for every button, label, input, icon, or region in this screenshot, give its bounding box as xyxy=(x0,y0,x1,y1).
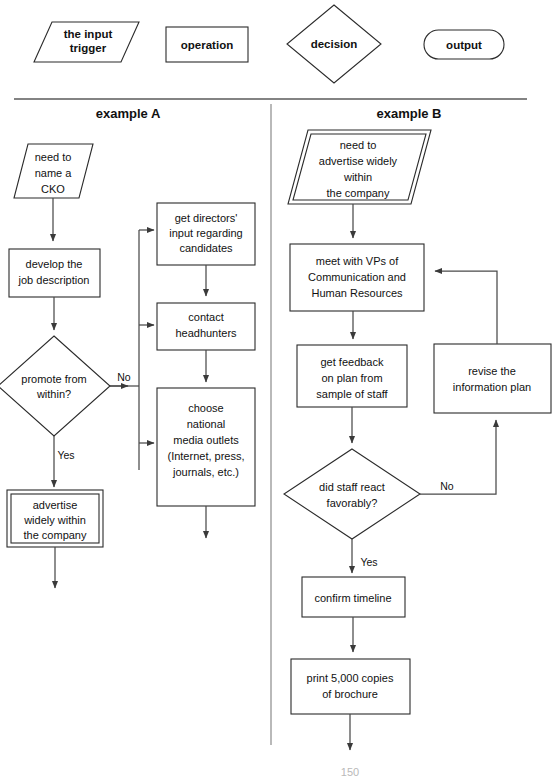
node-label-line2: job description xyxy=(18,274,90,286)
example-b-flow: need to advertise widely within the comp… xyxy=(284,130,551,750)
node-promote-from-within: promote from within? xyxy=(0,336,110,436)
node-revise-information-plan: revise the information plan xyxy=(434,344,551,413)
node-label-line2: information plan xyxy=(453,381,531,393)
legend-item-input: the input trigger xyxy=(34,22,139,62)
node-label-line3: Human Resources xyxy=(311,287,403,299)
node-contact-headhunters: contact headhunters xyxy=(157,303,255,350)
node-label-line2: within? xyxy=(36,388,71,400)
node-label-line2: favorably? xyxy=(327,497,378,509)
node-label-line2: of brochure xyxy=(322,688,378,700)
diamond-shape xyxy=(0,336,110,436)
node-label-line1: need to xyxy=(340,139,377,151)
legend-input-label-line2: trigger xyxy=(70,42,107,54)
legend: the input trigger operation decision out… xyxy=(34,5,504,83)
node-did-staff-react-favorably: did staff react favorably? xyxy=(284,449,420,539)
diamond-shape xyxy=(284,449,420,539)
node-choose-national-media-outlets: choose national media outlets (Internet,… xyxy=(157,388,255,506)
edge-b5-b4-no xyxy=(420,420,496,494)
node-label-line3: CKO xyxy=(41,183,65,195)
legend-decision-label: decision xyxy=(311,38,358,50)
node-label-line2: widely within xyxy=(23,514,86,526)
node-label-line1: need to xyxy=(35,151,72,163)
node-label-line1: get feedback xyxy=(321,356,384,368)
node-develop-job-description: develop the job description xyxy=(9,249,100,297)
legend-output-label: output xyxy=(446,39,482,51)
node-label-line1: advertise xyxy=(33,499,78,511)
node-need-to-name-cko: need to name a CKO xyxy=(14,144,93,198)
node-label-line3: within xyxy=(343,171,372,183)
node-label-line1: did staff react xyxy=(319,481,385,493)
node-label-line1: confirm timeline xyxy=(314,592,391,604)
edge-label-no-a: No xyxy=(117,371,131,383)
example-a-flow: need to name a CKO develop the job descr… xyxy=(0,144,255,588)
node-get-directors-input: get directors' input regarding candidate… xyxy=(157,203,255,265)
node-label-line1: contact xyxy=(188,311,223,323)
legend-item-output: output xyxy=(424,30,504,59)
edge-b4-b2 xyxy=(435,271,497,344)
legend-item-operation: operation xyxy=(166,27,248,62)
node-label-line2: national xyxy=(187,418,226,430)
node-label-line1: revise the xyxy=(468,365,516,377)
node-label-line1: develop the xyxy=(26,258,83,270)
edge-label-yes-a: Yes xyxy=(57,449,74,461)
node-label-line3: media outlets xyxy=(173,434,239,446)
node-label-line3: candidates xyxy=(179,242,233,254)
node-label-line5: journals, etc.) xyxy=(172,466,239,478)
page-number: 150 xyxy=(341,766,359,778)
edge-label-yes-b: Yes xyxy=(360,556,377,568)
header-example-b: example B xyxy=(376,106,441,121)
node-label-line4: the company xyxy=(327,187,390,199)
node-label-line1: meet with VPs of xyxy=(316,255,399,267)
node-label-line1: promote from xyxy=(21,373,86,385)
node-label-line2: input regarding xyxy=(169,227,242,239)
rectangle-shape xyxy=(9,249,100,297)
flowchart-canvas: the input trigger operation decision out… xyxy=(0,0,553,778)
node-get-feedback-on-plan: get feedback on plan from sample of staf… xyxy=(297,345,407,407)
node-label-line4: (Internet, press, xyxy=(167,450,244,462)
node-label-line1: choose xyxy=(188,402,223,414)
node-label-line3: sample of staff xyxy=(316,388,388,400)
node-need-to-advertise-widely: need to advertise widely within the comp… xyxy=(288,130,431,204)
node-label-line1: get directors' xyxy=(175,212,238,224)
node-label-line3: the company xyxy=(24,529,87,541)
node-label-line2: on plan from xyxy=(321,372,382,384)
node-label-line2: name a xyxy=(35,167,73,179)
legend-input-label-line1: the input xyxy=(64,28,113,40)
node-advertise-widely-within-company: advertise widely within the company xyxy=(7,490,103,547)
node-confirm-timeline: confirm timeline xyxy=(302,577,405,617)
legend-operation-label: operation xyxy=(181,39,233,51)
node-print-brochure-copies: print 5,000 copies of brochure xyxy=(291,659,410,714)
rectangle-shape xyxy=(434,344,551,413)
node-meet-with-vps: meet with VPs of Communication and Human… xyxy=(290,244,424,311)
header-example-a: example A xyxy=(96,106,161,121)
legend-item-decision: decision xyxy=(287,5,381,83)
node-label-line2: headhunters xyxy=(175,327,237,339)
node-label-line2: advertise widely xyxy=(319,155,398,167)
rectangle-shape xyxy=(291,659,410,714)
node-label-line1: print 5,000 copies xyxy=(307,672,394,684)
edge-label-no-b: No xyxy=(440,480,454,492)
node-label-line2: Communication and xyxy=(308,271,406,283)
